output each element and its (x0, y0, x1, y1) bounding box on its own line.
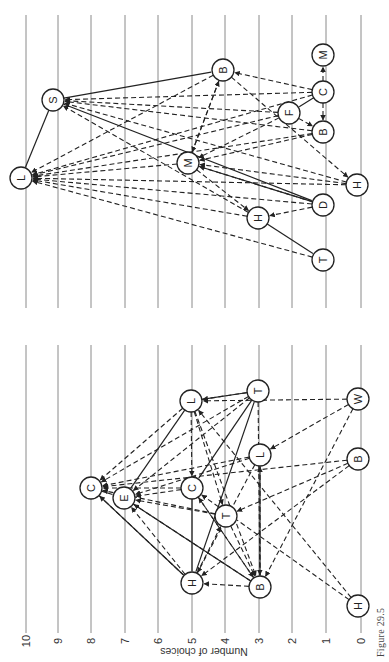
choice-arrow (204, 584, 249, 587)
svg-text:S: S (47, 96, 59, 103)
figure-caption: Figure 29.5 (375, 608, 386, 657)
choice-arrow (270, 404, 348, 449)
nodes: LSBMCFBMHDHTLTWLBCECTHBH (10, 44, 369, 617)
person-node: T (215, 505, 237, 527)
svg-text:C: C (317, 88, 329, 96)
person-node: L (10, 167, 32, 189)
person-node: B (249, 576, 271, 598)
person-node: D (312, 194, 334, 216)
person-node: F (278, 102, 300, 124)
axis-label: Number of choices (160, 646, 248, 658)
tick-label: 4 (219, 638, 231, 644)
svg-text:T: T (220, 512, 232, 519)
tick-label: 7 (119, 638, 131, 644)
choice-arrow (33, 134, 312, 177)
edges (26, 67, 353, 600)
svg-text:T: T (252, 387, 264, 394)
tick-label: 5 (186, 638, 198, 644)
choice-arrow (65, 101, 278, 113)
choice-arrow (299, 118, 313, 126)
tick-label: 2 (286, 638, 298, 644)
svg-text:H: H (252, 214, 264, 222)
svg-text:T: T (317, 256, 329, 263)
svg-text:C: C (186, 484, 198, 492)
choice-arrow (200, 134, 313, 160)
svg-text:B: B (254, 583, 266, 590)
person-node: E (113, 487, 135, 509)
svg-text:C: C (85, 484, 97, 492)
person-node: S (42, 89, 64, 111)
person-node: B (347, 448, 369, 470)
svg-text:B: B (317, 128, 329, 135)
tick-label: 0 (355, 638, 367, 644)
choice-arrow (231, 526, 255, 576)
svg-text:L: L (185, 398, 197, 404)
sociogram-figure: LSBMCFBMHDHTLTWLBCECTHBH 012345678910 Nu… (0, 0, 389, 662)
choice-arrow (100, 408, 183, 480)
person-node: T (312, 249, 334, 271)
svg-text:H: H (352, 602, 364, 610)
choice-arrow (270, 207, 312, 215)
person-node: C (80, 477, 102, 499)
person-node: L (249, 444, 271, 466)
choice-arrow (100, 496, 184, 575)
svg-text:M: M (317, 50, 329, 59)
person-node: B (212, 59, 234, 81)
person-node: H (347, 595, 369, 617)
tick-label: 8 (85, 638, 97, 644)
choice-arrow (101, 397, 248, 482)
choice-arrow (33, 164, 177, 177)
person-node: C (181, 477, 203, 499)
mutual-choice-edge (26, 110, 49, 167)
svg-text:B: B (352, 455, 364, 462)
person-node: M (177, 152, 199, 174)
person-node: C (312, 81, 334, 103)
svg-text:D: D (317, 201, 329, 209)
svg-text:B: B (217, 66, 229, 73)
mutual-choice-edge (299, 98, 313, 107)
mutual-choice-edge (202, 393, 246, 400)
choice-arrow (33, 116, 279, 176)
person-node: L (180, 390, 202, 412)
tick-label: 10 (20, 635, 32, 647)
choice-arrow (235, 73, 313, 90)
tick-label: 1 (320, 638, 332, 644)
svg-text:W: W (352, 393, 364, 404)
svg-text:H: H (186, 579, 198, 587)
person-node: M (312, 44, 334, 66)
svg-text:L: L (254, 452, 266, 458)
mutual-choice-edge (64, 72, 211, 98)
tick-label: 9 (52, 638, 64, 644)
svg-text:L: L (15, 175, 27, 181)
person-node: B (312, 121, 334, 143)
tick-label: 6 (152, 638, 164, 644)
person-node: H (247, 207, 269, 229)
choice-arrow (65, 92, 312, 99)
choice-arrow (197, 170, 249, 211)
svg-text:F: F (283, 109, 295, 116)
mutual-choice-edge (267, 224, 313, 254)
choice-arrow (266, 409, 353, 577)
svg-text:H: H (351, 181, 363, 189)
person-node: H (346, 174, 368, 196)
person-node: T (247, 380, 269, 402)
choice-arrow (136, 500, 215, 514)
axis-ticks: 012345678910 (20, 635, 367, 647)
svg-text:E: E (118, 494, 130, 501)
choice-arrow (33, 181, 313, 257)
choice-arrow (199, 410, 351, 597)
person-node: H (181, 572, 203, 594)
svg-text:M: M (182, 158, 194, 167)
person-node: W (347, 388, 369, 410)
tick-label: 3 (253, 638, 265, 644)
